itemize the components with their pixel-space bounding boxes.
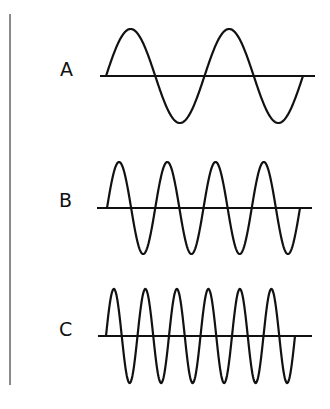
wave-c-label: C: [59, 320, 72, 339]
wave-a: [100, 29, 315, 123]
wave-c: [98, 289, 312, 383]
wave-b: [97, 162, 312, 254]
waves-diagram: [0, 0, 330, 409]
wave-a-label: A: [60, 60, 73, 79]
wave-b-label: B: [59, 191, 72, 210]
